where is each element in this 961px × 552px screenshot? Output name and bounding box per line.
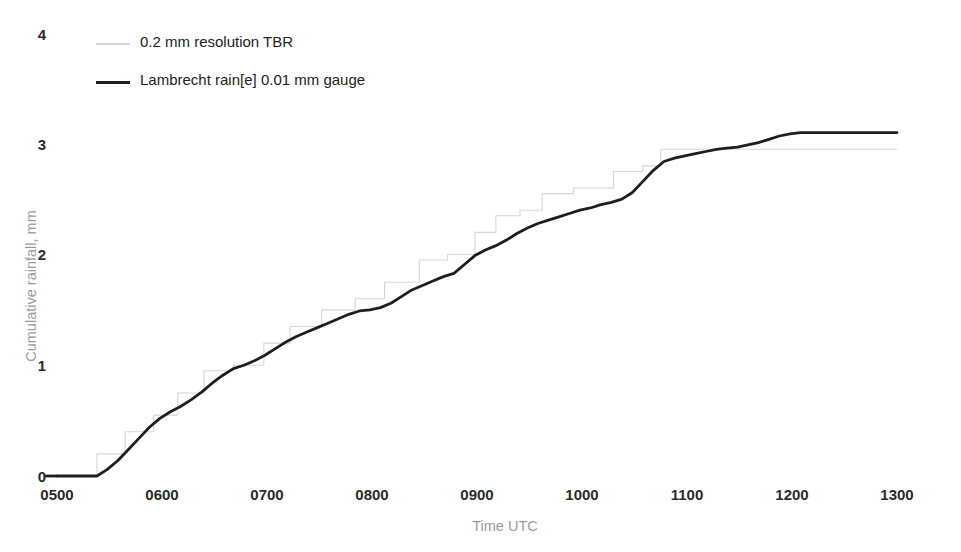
legend-item-tbr[interactable]: 0.2 mm resolution TBR xyxy=(96,32,396,52)
x-tick-0500: 0500 xyxy=(22,487,92,502)
x-tick-0900: 0900 xyxy=(442,487,512,502)
legend-line-icon-tbr xyxy=(96,36,130,50)
y-tick-3: 3 xyxy=(24,137,46,152)
y-tick-4: 4 xyxy=(24,27,46,42)
legend-label-tbr: 0.2 mm resolution TBR xyxy=(140,32,293,52)
series-line-1 xyxy=(57,149,897,476)
legend-line-icon-lambrecht xyxy=(96,74,130,88)
x-tick-0700: 0700 xyxy=(232,487,302,502)
caption-ghost xyxy=(8,539,428,550)
x-tick-1000: 1000 xyxy=(547,487,617,502)
x-tick-1200: 1200 xyxy=(757,487,827,502)
x-tick-0600: 0600 xyxy=(127,487,197,502)
x-axis-title: Time UTC xyxy=(445,518,565,534)
y-tick-0: 0 xyxy=(24,469,46,484)
x-tick-1300: 1300 xyxy=(862,487,932,502)
legend-label-lambrecht: Lambrecht rain[e] 0.01 mm gauge xyxy=(140,70,365,90)
series-line-2 xyxy=(57,133,897,476)
x-tick-0800: 0800 xyxy=(337,487,407,502)
chart-legend: 0.2 mm resolution TBR Lambrecht rain[e] … xyxy=(96,32,396,109)
chart-figure: 4 3 2 1 0 0500 0600 0700 0800 0900 1000 … xyxy=(0,0,961,552)
y-axis-title: Cumulative rainfall, mm xyxy=(23,176,39,396)
legend-item-lambrecht[interactable]: Lambrecht rain[e] 0.01 mm gauge xyxy=(96,70,396,90)
x-tick-1100: 1100 xyxy=(652,487,722,502)
